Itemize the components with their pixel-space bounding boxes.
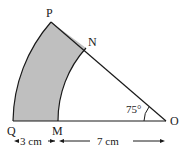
label-o: O	[170, 114, 179, 128]
shaded-region	[13, 22, 86, 121]
dimension-mo: 7 cm	[59, 135, 165, 147]
label-p: P	[46, 6, 53, 20]
dimension-qm: 3 cm	[14, 135, 55, 147]
label-m: M	[52, 124, 63, 138]
sector-diagram: P N Q M O 75° 3 cm 7 cm	[0, 0, 187, 156]
angle-label: 75°	[126, 103, 141, 115]
label-n: N	[88, 35, 97, 49]
label-q: Q	[7, 124, 16, 138]
dimension-mo-label: 7 cm	[97, 135, 119, 147]
angle-arc	[144, 107, 149, 121]
dimension-qm-label: 3 cm	[20, 135, 42, 147]
